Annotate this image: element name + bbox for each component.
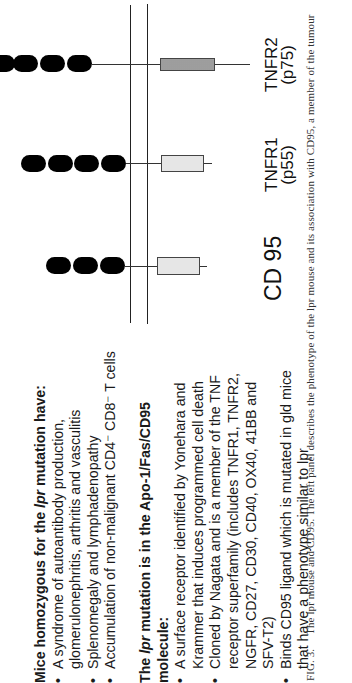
figure-label: FIG. 3.: [304, 649, 316, 681]
section1-bullet-1: A syndrome of autoantibody production, g…: [50, 333, 85, 683]
cd95-domain-1-icon: [46, 257, 71, 274]
section2-bullet-1: A surface receptor identified by Yonehar…: [172, 333, 207, 683]
tnfr2-label: TNFR2 (p75): [264, 38, 296, 92]
section1-bullet-2: Splenomegaly and lymphadenopathy: [85, 333, 103, 683]
tnfr2-domain-4-icon: [67, 55, 92, 72]
cd95-cytoplasmic-box: [157, 257, 200, 275]
tnfr2-cytoplasmic-box: [160, 58, 215, 71]
cd95-domain-2-icon: [73, 257, 98, 274]
tnfr2-domain-3-icon: [40, 55, 65, 72]
cd95-name: CD 95: [262, 239, 284, 301]
membrane-outer-line: [130, 5, 131, 323]
figure-caption: FIG. 3.The lpr mouse and CD95. The left …: [304, 0, 316, 681]
membrane-inner-line: [147, 4, 148, 324]
tnfr1-cytoplasmic-box: [161, 155, 204, 172]
tnfr1-subname: (p55): [280, 138, 296, 192]
tnfr1-domain-3-icon: [74, 155, 99, 172]
lpr-text-panel: Mice homozygous for the lpr mutation hav…: [32, 333, 313, 683]
cd95-domain-3-icon: [100, 257, 125, 274]
tnfr1-domain-4-icon: [101, 155, 126, 172]
tnfr2-subname: (p75): [280, 38, 296, 92]
section1-bullet-3: Accumulation of non-malignant CD4⁻ CD8⁻ …: [102, 333, 120, 683]
section2-bullet-2: Cloned by Nagata and is a member of the …: [207, 333, 277, 683]
section2-heading: The lpr mutation is in the Apo-1/Fas/CD9…: [137, 333, 172, 683]
tnfr1-domain-1-icon: [21, 155, 46, 172]
cd95-label: CD 95: [262, 239, 284, 301]
section1-heading: Mice homozygous for the lpr mutation hav…: [32, 333, 50, 683]
tnfr1-label: TNFR1 (p55): [264, 138, 296, 192]
tnfr1-domain-2-icon: [48, 155, 73, 172]
tnfr2-domain-2-icon: [13, 55, 38, 72]
caption-text: The lpr mouse and CD95. The left panel d…: [304, 14, 316, 634]
